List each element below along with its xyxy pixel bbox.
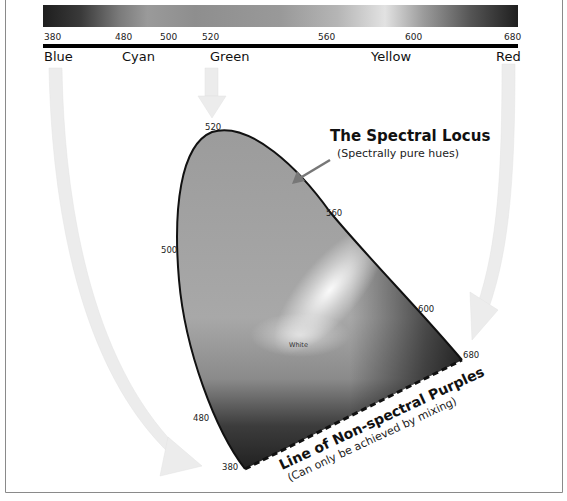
tick-600: 600 — [405, 32, 422, 42]
label-green: Green — [210, 49, 249, 64]
tick-380: 380 — [44, 32, 61, 42]
locus-label-380: 380 — [222, 462, 238, 472]
chromaticity-locus — [170, 120, 470, 480]
pointer-arrow-icon — [292, 160, 330, 184]
label-blue: Blue — [44, 49, 73, 64]
locus-label-480: 480 — [193, 413, 209, 423]
label-yellow: Yellow — [370, 49, 411, 64]
spectral-locus-subtitle: (Spectrally pure hues) — [337, 147, 459, 160]
spectrum-bar — [43, 5, 518, 27]
wavelength-axis-line — [43, 44, 518, 48]
tick-500: 500 — [160, 32, 177, 42]
white-point-label: White — [289, 341, 308, 349]
locus-label-600: 600 — [418, 304, 434, 314]
locus-label-680: 680 — [463, 350, 479, 360]
locus-label-520: 520 — [205, 122, 221, 132]
tick-680: 680 — [504, 32, 521, 42]
tick-480: 480 — [115, 32, 132, 42]
spectral-locus-diagram: 380 480 500 520 560 600 680 Blue Cyan Gr… — [0, 0, 567, 501]
wavelength-ticks: 380 480 500 520 560 600 680 — [44, 32, 521, 42]
color-names: Blue Cyan Green Yellow Red — [44, 49, 521, 64]
tick-520: 520 — [202, 32, 219, 42]
green-arrow-icon — [198, 68, 226, 118]
label-cyan: Cyan — [122, 49, 155, 64]
locus-label-500: 500 — [161, 245, 177, 255]
red-arrow-icon — [470, 64, 515, 340]
locus-label-560: 560 — [326, 208, 342, 218]
label-red: Red — [496, 49, 521, 64]
spectral-locus-title: The Spectral Locus — [330, 127, 490, 145]
tick-560: 560 — [318, 32, 335, 42]
